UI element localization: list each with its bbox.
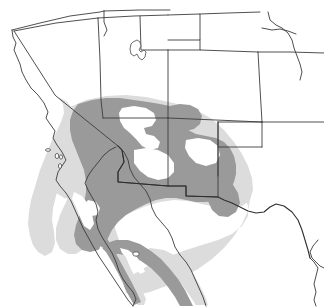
isla-tiburon — [133, 252, 139, 256]
channel-island-santa-catalina — [60, 155, 63, 159]
distribution-map-figure — [0, 0, 324, 307]
isla-cedros — [58, 164, 61, 169]
channel-island-san-clemente — [55, 153, 59, 158]
map-canvas — [0, 0, 324, 307]
channel-island-santa-cruz — [45, 149, 50, 152]
